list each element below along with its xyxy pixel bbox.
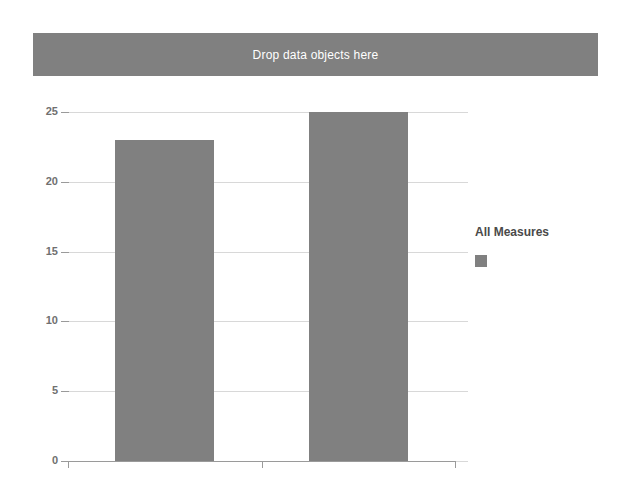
x-axis-tick <box>68 461 69 468</box>
y-axis-tick-label: 0 <box>32 455 58 466</box>
legend-title: All Measures <box>475 226 605 238</box>
bar[interactable] <box>115 140 214 461</box>
y-axis-tick <box>61 182 69 183</box>
y-axis-tick-label: 10 <box>32 315 58 326</box>
y-axis-tick-label-wrap: 0 <box>0 455 58 467</box>
y-axis-tick-label-wrap: 25 <box>0 106 58 118</box>
chart-legend: All Measures <box>475 226 605 267</box>
legend-swatch-all-measures[interactable] <box>475 255 487 267</box>
y-axis-tick-label: 25 <box>32 106 58 117</box>
y-axis-tick <box>61 112 69 113</box>
bar[interactable] <box>309 112 408 461</box>
chart-app: Drop data objects here 0510152025 All Me… <box>0 0 624 503</box>
y-axis-tick-label: 15 <box>32 246 58 257</box>
y-axis-tick-label: 20 <box>32 176 58 187</box>
y-axis-tick <box>61 321 69 322</box>
x-axis-tick <box>262 461 263 468</box>
y-axis-tick-label-wrap: 15 <box>0 246 58 258</box>
gridline <box>68 112 468 113</box>
y-axis-tick <box>61 391 69 392</box>
y-axis-tick-label-wrap: 5 <box>0 385 58 397</box>
x-axis-tick <box>455 461 456 468</box>
y-axis-tick-label-wrap: 10 <box>0 315 58 327</box>
legend-entries <box>475 255 605 267</box>
y-axis-tick-label: 5 <box>32 385 58 396</box>
y-axis-tick-label-wrap: 20 <box>0 176 58 188</box>
y-axis-tick <box>61 252 69 253</box>
